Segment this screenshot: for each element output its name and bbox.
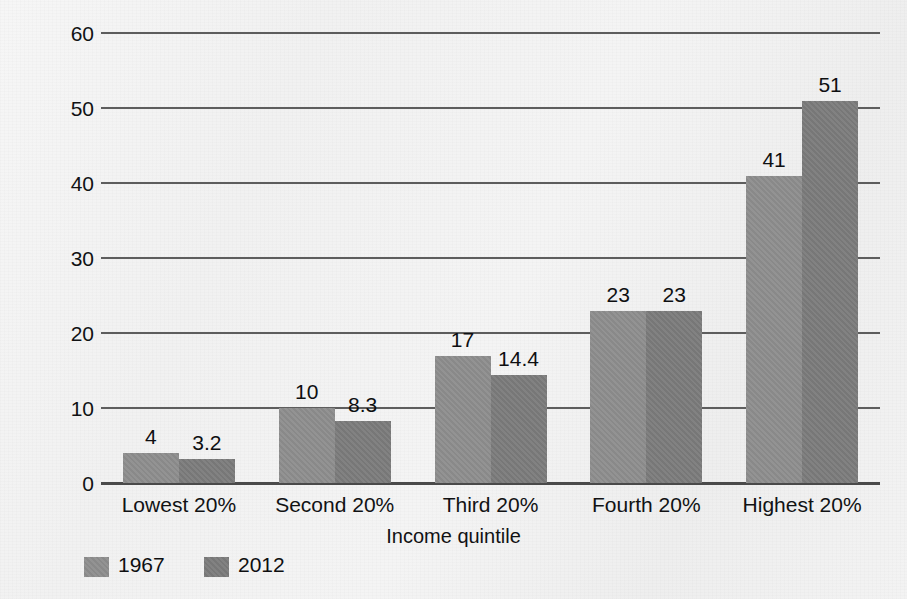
y-tick-label-10: 10 xyxy=(48,398,94,419)
y-tick-label-30: 30 xyxy=(48,248,94,269)
x-tick-label-second-20-: Second 20% xyxy=(245,494,425,515)
bar-label-1967-highest-20-: 41 xyxy=(734,149,814,170)
bar-2012-third-20- xyxy=(491,375,547,483)
bar-1967-third-20- xyxy=(435,356,491,484)
legend-item-1967[interactable]: 1967 xyxy=(84,553,165,577)
legend-swatch-2012 xyxy=(204,557,229,577)
x-tick-label-highest-20-: Highest 20% xyxy=(712,494,892,515)
y-tick-label-40: 40 xyxy=(48,173,94,194)
x-tick-label-third-20-: Third 20% xyxy=(401,494,581,515)
bar-1967-fourth-20- xyxy=(590,311,646,484)
legend-item-2012[interactable]: 2012 xyxy=(204,553,285,577)
bar-2012-second-20- xyxy=(335,421,391,483)
y-tick-label-50: 50 xyxy=(48,98,94,119)
plot-area xyxy=(101,33,880,483)
y-tick-label-0: 0 xyxy=(48,473,94,494)
x-axis-title: Income quintile xyxy=(0,525,907,548)
gridline-50 xyxy=(101,107,880,109)
bar-label-2012-fourth-20-: 23 xyxy=(634,284,714,305)
bar-1967-second-20- xyxy=(279,408,335,483)
bar-2012-lowest-20- xyxy=(179,459,235,483)
y-tick-label-60: 60 xyxy=(48,23,94,44)
legend-label-1967: 1967 xyxy=(118,553,165,577)
chart-figure: Percentage of total family income 010203… xyxy=(0,0,907,599)
bar-label-2012-third-20-: 14.4 xyxy=(479,348,559,369)
legend-swatch-1967 xyxy=(84,557,109,577)
bar-label-2012-highest-20-: 51 xyxy=(790,74,870,95)
x-tick-label-fourth-20-: Fourth 20% xyxy=(556,494,736,515)
gridline-60 xyxy=(101,32,880,34)
bar-2012-fourth-20- xyxy=(646,311,702,484)
bar-1967-highest-20- xyxy=(746,176,802,484)
cropped-title-remnant xyxy=(66,0,366,3)
legend-label-2012: 2012 xyxy=(238,553,285,577)
y-tick-label-20: 20 xyxy=(48,323,94,344)
bar-label-2012-second-20-: 8.3 xyxy=(323,394,403,415)
bar-label-1967-third-20-: 17 xyxy=(423,329,503,350)
bar-1967-lowest-20- xyxy=(123,453,179,483)
x-tick-label-lowest-20-: Lowest 20% xyxy=(89,494,269,515)
bar-label-2012-lowest-20-: 3.2 xyxy=(167,432,247,453)
